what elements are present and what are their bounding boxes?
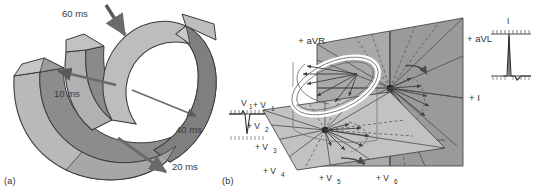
lead-I-trace-label: I [507, 16, 509, 26]
lead-I-ticks-top [493, 30, 529, 34]
lead-label-I: + I [469, 92, 480, 103]
lead-label-aVL: + aVL [467, 33, 492, 44]
panel-a-caption: (a) [4, 176, 16, 186]
lead-label-aVR: + aVR [298, 35, 325, 46]
lead-label-V6-text: + V [376, 173, 389, 183]
panel-b-caption: (b) [222, 176, 234, 186]
lead-label-V3-sub: 3 [273, 147, 277, 154]
isochrone-label-20ms: 20 ms [172, 161, 198, 172]
lead-label-V2: + V 2 [247, 121, 269, 133]
lead-I-waveform [503, 36, 531, 80]
lead-label-V5-text: + V [319, 173, 332, 183]
lead-label-V6: + V 6 [376, 173, 398, 185]
lead-label-V4: + V 4 [263, 166, 285, 178]
lead-label-V1-sub: 1 [271, 105, 275, 112]
lead-label-V5: + V 5 [319, 173, 341, 185]
isochrone-arrow-60ms [106, 5, 125, 35]
isochrone-label-60ms: 60 ms [62, 8, 88, 19]
isochrone-label-40ms: 40 ms [176, 124, 202, 135]
panel-a-svg: 60 ms 10 ms 40 ms 20 ms [0, 0, 267, 191]
isochrone-arrow-40ms [132, 90, 196, 116]
lead-label-V3: + V 3 [255, 142, 277, 154]
lead-I-ticks-bottom [493, 76, 529, 80]
lead-label-V4-text: + V [263, 166, 276, 176]
lead-V1-trace-sub: 1 [249, 103, 253, 110]
panel-a-ventricular-activation: 60 ms 10 ms 40 ms 20 ms [0, 0, 267, 191]
isochrone-label-10ms: 10 ms [54, 88, 80, 99]
lead-label-V3-text: + V [255, 142, 268, 152]
lead-label-V2-sub: 2 [265, 126, 269, 133]
lead-label-V1-text: + V [253, 100, 266, 110]
lead-label-V5-sub: 5 [337, 178, 341, 185]
panel-b-svg: + aVR + aVL + I + V 1 + V 2 + V 3 + V 4 … [245, 0, 534, 191]
lead-V1-trace-label: V [241, 98, 247, 108]
panel-b-ecg-lead-axes: + aVR + aVL + I + V 1 + V 2 + V 3 + V 4 … [245, 0, 534, 191]
lead-label-V4-sub: 4 [281, 171, 285, 178]
lead-I-trace: I [491, 16, 531, 80]
lead-label-V6-sub: 6 [394, 178, 398, 185]
figure-root: 60 ms 10 ms 40 ms 20 ms [0, 0, 534, 191]
